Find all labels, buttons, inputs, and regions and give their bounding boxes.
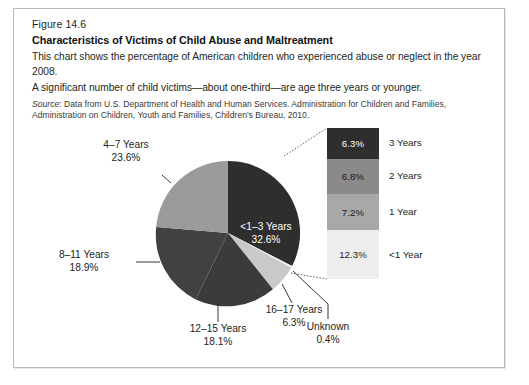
- breakout-band-2-years-value: 6.8%: [342, 171, 364, 182]
- breakout-band-3-years: 6.3%: [327, 128, 379, 159]
- callout-under-3-years-value: 32.6%: [223, 234, 309, 247]
- callout-12-15-years-value: 18.1%: [167, 336, 269, 349]
- breakout-label-under-1-year: <1 Year: [389, 249, 423, 260]
- callout-4-7-years-label: 4–7 Years: [76, 139, 176, 152]
- breakout-band-under-1-year: 12.3%: [327, 230, 379, 279]
- breakout-band-under-1-year-value: 12.3%: [339, 249, 367, 260]
- breakout-label-2-years: 2 Years: [389, 170, 422, 181]
- figure-frame: Figure 14.6 Characteristics of Victims o…: [13, 8, 505, 368]
- leader-line-16-17-years: [282, 284, 292, 303]
- callout-4-7-years: 4–7 Years 23.6%: [76, 139, 176, 164]
- breakout-stacked-bar: 6.3% 3 Years 6.8% 2 Years 7.2% 1 Year 12…: [327, 128, 379, 279]
- breakout-band-2-years: 6.8%: [327, 159, 379, 194]
- callout-under-3-years-label: <1–3 Years: [223, 221, 309, 234]
- callout-unknown-value: 0.4%: [282, 334, 374, 347]
- chart-area: 4–7 Years 23.6% 8–11 Years 18.9% 12–15 Y…: [14, 9, 506, 369]
- callout-unknown-label: Unknown: [282, 321, 374, 334]
- breakout-band-1-year-value: 7.2%: [342, 207, 364, 218]
- breakout-label-3-years: 3 Years: [389, 137, 422, 148]
- callout-8-11-years: 8–11 Years 18.9%: [36, 249, 132, 274]
- pie-slice-4-7-years: [156, 161, 228, 233]
- callout-8-11-years-value: 18.9%: [36, 262, 132, 275]
- leader-line-4-7-years: [162, 175, 171, 183]
- callout-8-11-years-label: 8–11 Years: [36, 249, 132, 262]
- callout-unknown: Unknown 0.4%: [282, 321, 374, 346]
- callout-under-3-years: <1–3 Years 32.6%: [223, 221, 309, 246]
- breakout-band-1-year: 7.2%: [327, 194, 379, 230]
- callout-16-17-years-label: 16–17 Years: [246, 304, 342, 317]
- breakout-band-3-years-value: 6.3%: [342, 138, 364, 149]
- callout-4-7-years-value: 23.6%: [76, 152, 176, 165]
- breakout-label-1-year: 1 Year: [389, 206, 417, 217]
- breakout-connector-top: [284, 128, 327, 156]
